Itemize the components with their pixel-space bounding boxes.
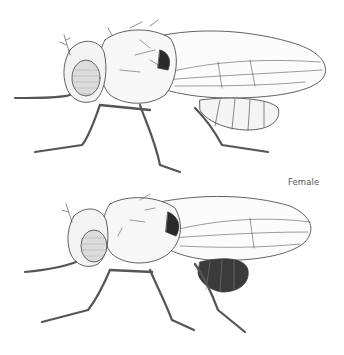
fly-illustration-bottom — [0, 180, 344, 355]
fly-illustration-top — [0, 0, 344, 180]
illustration-canvas: Female — [0, 0, 344, 355]
